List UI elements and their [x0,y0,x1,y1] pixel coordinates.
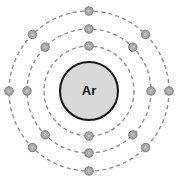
bohr-atom-diagram: Ar [0,0,178,182]
electron-highlight [31,33,35,37]
electron-highlight [144,146,148,150]
nucleus: Ar [60,62,118,120]
electron-highlight [131,45,135,49]
electron-highlight [149,89,153,93]
electron-highlight [43,133,47,137]
electron-highlight [43,45,47,49]
electron-highlight [25,89,29,93]
electron-highlight [87,44,91,48]
electron-highlight [7,89,11,93]
electron-highlight [87,134,91,138]
electron-highlight [87,151,91,155]
electron-highlight [167,89,171,93]
atom-diagram-canvas: Ar [0,0,178,182]
electron-highlight [131,133,135,137]
electron-highlight [31,146,35,150]
electron-highlight [144,33,148,37]
electron-highlight [87,169,91,173]
nucleus-element-symbol: Ar [82,83,96,98]
electron-highlight [87,9,91,13]
electron-highlight [87,27,91,31]
